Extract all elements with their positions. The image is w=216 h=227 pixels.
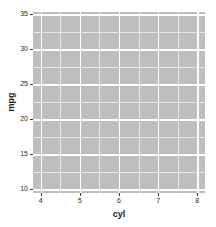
x-axis-tick-mark <box>158 193 159 196</box>
y-axis-tick-label: 35 <box>20 10 28 18</box>
y-axis-title: mpg <box>6 93 16 112</box>
x-axis-tick-mark <box>197 193 198 196</box>
x-axis-tick-mark <box>119 193 120 196</box>
y-axis-tick-mark <box>30 189 33 190</box>
y-axis-tick-mark <box>30 119 33 120</box>
x-axis-tick-mark <box>80 193 81 196</box>
horizontal-gridline <box>33 154 205 155</box>
horizontal-gridline <box>33 189 205 190</box>
x-axis-tick-label: 6 <box>117 197 121 205</box>
plot-panel <box>33 12 205 193</box>
vertical-gridline <box>139 12 140 193</box>
horizontal-gridline <box>33 14 205 15</box>
y-axis-tick-mark <box>30 14 33 15</box>
vertical-gridline <box>99 12 100 193</box>
x-axis-tick-mark <box>41 193 42 196</box>
x-axis-title: cyl <box>113 209 126 219</box>
chart-container: 45678101520253035 mpg cyl <box>0 0 216 227</box>
vertical-gridline <box>178 12 179 193</box>
x-axis-tick-label: 4 <box>39 197 43 205</box>
vertical-gridline <box>60 12 61 193</box>
horizontal-gridline <box>33 119 205 120</box>
horizontal-gridline <box>33 49 205 50</box>
y-axis-tick-mark <box>30 49 33 50</box>
vertical-gridline <box>158 12 159 193</box>
vertical-gridline <box>119 12 120 193</box>
x-axis-tick-label: 8 <box>195 197 199 205</box>
y-axis-tick-label: 15 <box>20 150 28 158</box>
y-axis-tick-mark <box>30 84 33 85</box>
y-axis-tick-label: 10 <box>20 185 28 193</box>
x-axis-tick-label: 7 <box>156 197 160 205</box>
vertical-gridline <box>41 12 42 193</box>
y-axis-tick-mark <box>30 154 33 155</box>
horizontal-gridline <box>33 84 205 85</box>
y-axis-tick-label: 20 <box>20 115 28 123</box>
vertical-gridline <box>197 12 198 193</box>
x-axis-tick-label: 5 <box>78 197 82 205</box>
y-axis-tick-label: 30 <box>20 45 28 53</box>
vertical-gridline <box>80 12 81 193</box>
y-axis-tick-label: 25 <box>20 80 28 88</box>
